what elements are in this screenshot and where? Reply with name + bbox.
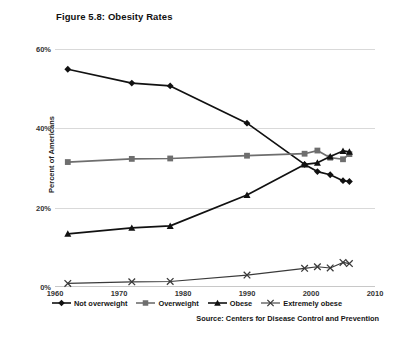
- y-tick-60: 60%: [36, 45, 51, 54]
- series-line: [68, 151, 350, 234]
- data-point: [167, 156, 173, 162]
- y-axis-tick-labels: 0%20%40%60%: [16, 49, 51, 287]
- data-point: [340, 177, 347, 184]
- data-point: [129, 156, 135, 162]
- triangle-marker-icon: [208, 298, 227, 308]
- data-point: [244, 191, 251, 197]
- data-point: [340, 156, 346, 162]
- data-point: [327, 171, 334, 178]
- legend-item-not-overweight[interactable]: Not overweight: [52, 298, 127, 308]
- data-point: [244, 153, 250, 159]
- legend-item-extremely-obese[interactable]: Extremely obese: [261, 298, 342, 308]
- data-point: [314, 168, 321, 175]
- plot-area: [55, 49, 375, 287]
- data-point: [346, 178, 353, 185]
- square-marker-icon: [136, 298, 155, 308]
- legend-item-overweight[interactable]: Overweight: [136, 298, 198, 308]
- y-tick-40: 40%: [36, 124, 51, 133]
- chart-title: Figure 5.8: Obesity Rates: [56, 11, 173, 22]
- data-point: [315, 148, 321, 154]
- data-point: [302, 151, 308, 157]
- data-point: [128, 80, 135, 87]
- series-extremely-obese: [65, 259, 353, 287]
- legend-label: Obese: [230, 299, 253, 308]
- source-note: Source: Centers for Disease Control and …: [196, 314, 379, 323]
- series-not-overweight: [64, 66, 352, 185]
- legend-label: Extremely obese: [283, 299, 342, 308]
- diamond-marker-icon: [52, 298, 71, 308]
- x-marker-icon: [261, 298, 280, 308]
- series-plot: [55, 49, 375, 287]
- legend-label: Overweight: [158, 299, 198, 308]
- data-point: [65, 159, 71, 165]
- legend-item-obese[interactable]: Obese: [208, 298, 253, 308]
- y-tick-20: 20%: [36, 203, 51, 212]
- obesity-rates-figure: Figure 5.8: Obesity Rates Percent of Ame…: [0, 0, 398, 339]
- chart-legend: Not overweightOverweightObeseExtremely o…: [52, 297, 382, 309]
- series-overweight: [65, 148, 352, 165]
- data-point: [64, 66, 71, 73]
- data-point: [167, 82, 174, 89]
- legend-label: Not overweight: [74, 299, 127, 308]
